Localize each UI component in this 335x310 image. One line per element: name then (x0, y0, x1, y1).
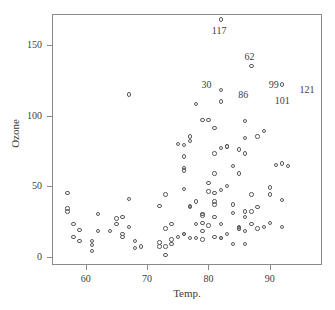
x-tick-mark (86, 265, 87, 270)
x-tick-mark (208, 265, 209, 270)
x-tick-label: 70 (127, 274, 167, 284)
y-tick-mark (47, 186, 52, 187)
y-tick-mark (47, 257, 52, 258)
y-tick-label: 0 (6, 252, 42, 262)
y-tick-mark (47, 45, 52, 46)
x-tick-label: 80 (188, 274, 228, 284)
x-axis-title: Temp. (52, 288, 322, 299)
outlier-labels-layer: 11762308699121101 (0, 0, 335, 310)
y-tick-mark (47, 116, 52, 117)
y-axis-title: Ozone (10, 104, 21, 164)
outlier-label: 121 (299, 85, 314, 95)
outlier-label: 117 (212, 26, 227, 36)
x-tick-mark (147, 265, 148, 270)
outlier-label: 86 (238, 90, 248, 100)
outlier-label: 99 (269, 80, 279, 90)
y-tick-label: 50 (6, 181, 42, 191)
outlier-label: 101 (275, 96, 290, 106)
outlier-label: 62 (244, 52, 254, 62)
x-tick-mark (270, 265, 271, 270)
x-tick-label: 60 (66, 274, 106, 284)
x-tick-label: 90 (250, 274, 290, 284)
scatter-plot-figure: 11762308699121101 05010015060708090 Ozon… (0, 0, 335, 310)
outlier-label: 30 (201, 80, 211, 90)
y-tick-label: 150 (6, 40, 42, 50)
